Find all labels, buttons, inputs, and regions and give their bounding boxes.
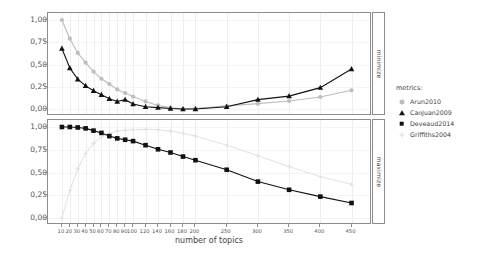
legend: metrics: Arun2010CaoJuan2009Deveaud2014G…: [396, 84, 482, 140]
legend-label: Griffiths2004: [410, 131, 451, 138]
x-tick-label: 30: [73, 228, 80, 234]
legend-label: Deveaud2014: [410, 120, 454, 127]
strip-text-maximize: maximize: [375, 156, 382, 187]
x-tick-mark: [157, 224, 158, 227]
x-tick-label: 450: [346, 228, 356, 234]
x-tick-mark: [93, 224, 94, 227]
x-tick-label: 80: [113, 228, 120, 234]
strip-text-minimize: minimize: [375, 49, 382, 78]
legend-item-griffiths2004[interactable]: Griffiths2004: [396, 129, 482, 140]
series-layer: [48, 120, 371, 224]
y-tick-label: 0,50: [3, 59, 47, 68]
x-tick-label: 350: [283, 228, 293, 234]
x-tick-mark: [108, 224, 109, 227]
x-tick-mark: [226, 224, 227, 227]
x-tick-mark: [77, 224, 78, 227]
x-tick-mark: [116, 224, 117, 227]
strip-label-minimize: minimize: [372, 12, 385, 115]
y-tick-label: 0,00: [3, 213, 47, 222]
series-griffiths2004: [60, 127, 354, 220]
legend-item-arun2010[interactable]: Arun2010: [396, 96, 482, 107]
legend-items: Arun2010CaoJuan2009Deveaud2014Griffiths2…: [396, 96, 482, 140]
triangle-marker-icon: [396, 107, 407, 118]
x-tick-label: 20: [65, 228, 72, 234]
legend-item-caojuan2009[interactable]: CaoJuan2009: [396, 107, 482, 118]
circle-marker-icon: [396, 96, 407, 107]
x-tick-mark: [182, 224, 183, 227]
x-tick-label: 180: [177, 228, 187, 234]
plus-marker-icon: [396, 129, 407, 140]
x-tick-mark: [288, 224, 289, 227]
x-tick-mark: [61, 224, 62, 227]
y-tick-label: 0,25: [3, 81, 47, 90]
x-tick-mark: [145, 224, 146, 227]
x-tick-mark: [194, 224, 195, 227]
legend-label: CaoJuan2009: [410, 109, 452, 116]
y-tick-label: 1,00: [3, 122, 47, 131]
y-tick-label: 1,00: [3, 15, 47, 24]
x-tick-mark: [69, 224, 70, 227]
chart-root: 0,000,250,500,751,000,000,250,500,751,00…: [0, 0, 485, 259]
legend-item-deveaud2014[interactable]: Deveaud2014: [396, 118, 482, 129]
x-tick-mark: [85, 224, 86, 227]
x-tick-label: 300: [252, 228, 262, 234]
y-tick-label: 0,50: [3, 167, 47, 176]
x-tick-mark: [319, 224, 320, 227]
y-tick-label: 0,75: [3, 37, 47, 46]
x-tick-label: 400: [314, 228, 324, 234]
x-tick-label: 100: [127, 228, 137, 234]
panel-maximize: [47, 119, 371, 224]
x-tick-label: 50: [89, 228, 96, 234]
x-tick-mark: [351, 224, 352, 227]
y-tick-label: 0,75: [3, 144, 47, 153]
series-deveaud2014: [60, 125, 354, 206]
x-tick-label: 250: [221, 228, 231, 234]
y-tick-label: 0,00: [3, 104, 47, 113]
x-tick-mark: [257, 224, 258, 227]
x-tick-mark: [170, 224, 171, 227]
x-tick-label: 70: [105, 228, 112, 234]
x-tick-label: 200: [190, 228, 200, 234]
x-tick-label: 120: [140, 228, 150, 234]
x-tick-mark: [124, 224, 125, 227]
series-arun2010: [60, 18, 354, 111]
y-tick-label: 0,25: [3, 190, 47, 199]
panel-minimize: [47, 12, 371, 115]
square-marker-icon: [396, 118, 407, 129]
x-tick-label: 40: [81, 228, 88, 234]
x-tick-label: 140: [152, 228, 162, 234]
plot-area-minimize: [48, 13, 370, 114]
plot-area-maximize: [48, 120, 370, 223]
legend-title: metrics:: [396, 84, 482, 92]
panel-column: [47, 12, 371, 224]
legend-label: Arun2010: [410, 98, 441, 105]
x-tick-label: 60: [97, 228, 104, 234]
x-axis-title: number of topics: [47, 236, 371, 245]
strip-label-maximize: maximize: [372, 119, 385, 224]
x-tick-label: 160: [165, 228, 175, 234]
x-tick-mark: [100, 224, 101, 227]
series-layer: [48, 13, 371, 115]
x-tick-mark: [132, 224, 133, 227]
x-tick-label: 10: [58, 228, 65, 234]
y-axis-labels: 0,000,250,500,751,000,000,250,500,751,00: [0, 0, 47, 259]
